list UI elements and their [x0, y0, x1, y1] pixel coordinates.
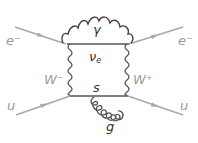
arrow-icon: [40, 104, 48, 109]
up-out-line: [128, 96, 183, 115]
neutrino-label: νe: [89, 49, 101, 65]
gluon-line: [91, 97, 123, 121]
strange-label: s: [93, 80, 100, 95]
up-in-label: u: [7, 98, 15, 113]
w-minus-line: [68, 44, 72, 95]
arrow-icon: [151, 103, 160, 108]
arrow-icon: [151, 35, 159, 40]
electron-out-line: [129, 27, 183, 44]
electron-in-line: [15, 27, 66, 44]
electron-in-label: e⁻: [6, 33, 21, 48]
gluon-label: g: [106, 119, 114, 134]
photon-label: γ: [93, 22, 102, 37]
w-plus-line: [125, 44, 129, 95]
feynman-diagram: e⁻ e⁻ u u W⁻ W⁺ γ νe s g: [0, 0, 198, 143]
w-minus-label: W⁻: [44, 72, 64, 87]
arrow-icon: [37, 33, 45, 38]
up-out-label: u: [180, 98, 188, 113]
up-in-line: [16, 96, 70, 115]
w-plus-label: W⁺: [133, 72, 153, 87]
electron-out-label: e⁻: [178, 33, 193, 48]
